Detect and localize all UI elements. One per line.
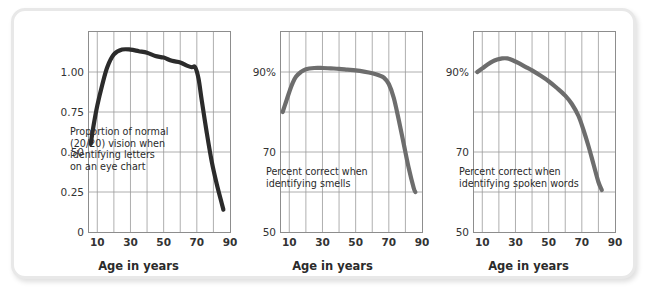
y-tick-label: 0.50: [61, 146, 84, 158]
y-tick-label: 50: [263, 226, 276, 238]
chart-panel-hearing: 507090% 1030507090 Percent correct when …: [426, 11, 631, 276]
plot-area-hearing: 507090% 1030507090: [473, 31, 616, 233]
plot-svg-vision: [89, 32, 230, 232]
x-tick-label: 10: [282, 236, 297, 248]
x-tick-label: 10: [90, 236, 105, 248]
y-tick-label: 0.25: [61, 186, 84, 198]
y-tick-label: 0.75: [61, 106, 84, 118]
plot-area-vision: 00.250.500.751.00 1030507090: [88, 31, 231, 233]
y-tick-label: 90%: [253, 66, 276, 78]
y-tick-label: 50: [456, 226, 469, 238]
data-line: [91, 49, 224, 209]
plot-area-smell: 507090% 1030507090: [280, 31, 423, 233]
x-tick-label: 70: [575, 236, 590, 248]
plot-svg-smell: [281, 32, 422, 232]
figure-frame: 00.250.500.751.00 1030507090 Proportion …: [11, 8, 636, 279]
y-tick-label: 90%: [446, 66, 469, 78]
x-tick-label: 70: [190, 236, 205, 248]
y-tick-label: 70: [263, 146, 276, 158]
y-tick-label: 1.00: [61, 66, 84, 78]
y-tick-label: 70: [456, 146, 469, 158]
chart-panels: 00.250.500.751.00 1030507090 Proportion …: [14, 11, 633, 276]
x-tick-label: 50: [541, 236, 556, 248]
plot-svg-hearing: [474, 32, 615, 232]
x-axis-title-vision: Age in years: [36, 259, 241, 273]
y-tick-label: 0: [77, 226, 84, 238]
chart-panel-smell: 507090% 1030507090 Percent correct when …: [230, 11, 435, 276]
x-tick-label: 30: [315, 236, 330, 248]
data-line: [477, 58, 601, 190]
x-tick-label: 10: [475, 236, 490, 248]
x-axis-title-hearing: Age in years: [426, 259, 631, 273]
x-tick-label: 30: [508, 236, 523, 248]
x-axis-title-smell: Age in years: [230, 259, 435, 273]
x-tick-label: 90: [608, 236, 623, 248]
x-tick-label: 50: [348, 236, 363, 248]
x-tick-label: 30: [123, 236, 138, 248]
chart-panel-vision: 00.250.500.751.00 1030507090 Proportion …: [36, 11, 241, 276]
x-tick-label: 50: [156, 236, 171, 248]
data-line: [283, 68, 416, 192]
x-tick-label: 70: [382, 236, 397, 248]
